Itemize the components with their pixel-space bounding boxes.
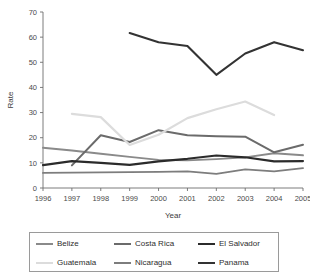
x-tick-label: 1997 [64,194,81,203]
y-tick-label: 70 [29,8,37,17]
x-axis-group: 1996199719981999200020012002200320042005… [35,188,310,220]
series-line-nicaragua [43,168,303,174]
y-axis-group: 010203040506070 Rate [6,8,43,193]
x-tick-label: 1996 [35,194,52,203]
y-tick-label: 0 [33,184,37,193]
chart-container: 010203040506070 Rate 1996199719981999200… [0,0,310,279]
legend-grid: BelizeCosta RicaEl SalvadorGuatemalaNica… [30,233,278,271]
y-tick-label: 10 [29,159,37,168]
legend-swatch [198,243,215,245]
series-line-panama [130,33,303,75]
x-tick-label: 2004 [266,194,283,203]
x-axis-tick-labels: 1996199719981999200020012002200320042005 [35,194,310,203]
x-tick-label: 2000 [150,194,167,203]
line-chart-plot: 010203040506070 Rate 1996199719981999200… [0,0,310,232]
series-line-el-salvador [43,156,303,166]
legend-label: El Salvador [219,240,260,248]
x-tick-label: 2001 [179,194,196,203]
legend-item-panama[interactable]: Panama [198,259,286,267]
y-tick-label: 30 [29,108,37,117]
y-tick-label: 20 [29,133,37,142]
y-tick-label: 40 [29,83,37,92]
series-line-guatemala [72,102,274,145]
x-tick-label: 2003 [237,194,254,203]
legend-label: Panama [219,259,249,267]
legend-item-belize[interactable]: Belize [36,240,114,248]
legend-item-guatemala[interactable]: Guatemala [36,259,114,267]
legend-swatch [198,262,215,264]
x-tick-label: 1998 [92,194,109,203]
legend-swatch [36,243,53,245]
y-tick-label: 50 [29,58,37,67]
legend-item-el-salvador[interactable]: El Salvador [198,240,286,248]
legend-swatch [114,243,131,245]
chart-legend: BelizeCosta RicaEl SalvadorGuatemalaNica… [29,232,279,272]
legend-label: Costa Rica [135,240,174,248]
legend-label: Guatemala [57,259,96,267]
legend-swatch [114,262,131,264]
legend-item-costa-rica[interactable]: Costa Rica [114,240,198,248]
series-lines-group [43,33,303,174]
legend-label: Belize [57,240,79,248]
x-tick-label: 2005 [295,194,310,203]
legend-label: Nicaragua [135,259,171,267]
y-tick-label: 60 [29,33,37,42]
y-axis-tick-labels: 010203040506070 [29,8,37,193]
x-tick-label: 1999 [121,194,138,203]
legend-item-nicaragua[interactable]: Nicaragua [114,259,198,267]
x-axis-title: Year [165,211,182,220]
y-axis-title: Rate [6,91,15,108]
legend-swatch [36,262,53,264]
x-tick-label: 2002 [208,194,225,203]
